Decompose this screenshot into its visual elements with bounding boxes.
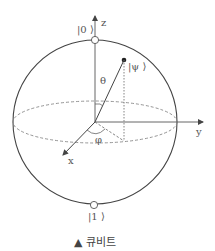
- triangle-marker-icon: ▲: [74, 236, 82, 249]
- psi-vector: [95, 60, 124, 122]
- state-one-marker: [90, 201, 97, 208]
- state-zero-label: |0 ⟩: [77, 24, 94, 36]
- state-psi-label: |ψ ⟩: [128, 61, 146, 73]
- caption-text: 큐비트: [86, 236, 116, 249]
- x-axis-label: x: [68, 155, 74, 166]
- phi-label: φ: [95, 134, 102, 145]
- theta-arc: [95, 104, 103, 106]
- bloch-sphere-diagram: z y x |0 ⟩ |1 ⟩ |ψ ⟩ θ φ: [0, 0, 215, 251]
- theta-label: θ: [100, 75, 106, 86]
- state-one-label: |1 ⟩: [88, 211, 105, 223]
- z-axis-label: z: [101, 17, 106, 28]
- figure-caption: ▲ 큐비트: [0, 233, 190, 249]
- x-axis: [63, 122, 95, 155]
- y-axis-label: y: [195, 126, 202, 137]
- state-zero-marker: [91, 36, 98, 43]
